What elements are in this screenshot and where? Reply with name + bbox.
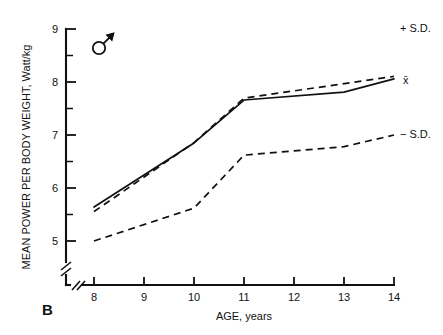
y-axis: [61, 29, 71, 285]
y-tick-label-7: 7: [52, 129, 58, 141]
y-tick-label-8: 8: [52, 76, 58, 88]
x-tick-marks: [94, 277, 394, 285]
series-line-mean: [94, 79, 394, 207]
x-tick-label-11: 11: [238, 291, 249, 303]
male-symbol-icon: [93, 33, 114, 54]
series-label-plus-sd: + S.D.: [400, 22, 431, 34]
figure-panel-b: 9 8 7 6 5 8 9 10 11 12 13 14 AGE, years: [0, 0, 443, 335]
x-tick-label-9: 9: [141, 291, 147, 303]
panel-label: B: [42, 301, 53, 318]
y-tick-label-5: 5: [52, 235, 58, 247]
chart-canvas: 9 8 7 6 5 8 9 10 11 12 13 14 AGE, years: [0, 0, 443, 335]
series-line-minus-sd: [94, 135, 394, 241]
x-tick-label-14: 14: [388, 291, 400, 303]
x-tick-labels: 8 9 10 11 12 13 14: [91, 291, 400, 303]
x-tick-label-13: 13: [338, 291, 350, 303]
x-tick-label-12: 12: [288, 291, 300, 303]
y-tick-marks: [66, 29, 76, 241]
series-label-minus-sd: − S.D.: [400, 128, 431, 140]
series-label-mean: x̄: [403, 74, 409, 86]
y-tick-label-6: 6: [52, 182, 58, 194]
y-axis-title: MEAN POWER PER BODY WEIGHT, Watt/kg: [20, 45, 32, 270]
x-tick-label-10: 10: [188, 291, 200, 303]
x-tick-label-8: 8: [91, 291, 97, 303]
y-tick-labels: 9 8 7 6 5: [52, 23, 58, 247]
series-label-mean-group: x̄: [403, 74, 409, 86]
x-axis-title: AGE, years: [216, 310, 273, 322]
y-tick-label-9: 9: [52, 23, 58, 35]
series-line-plus-sd: [94, 76, 394, 211]
